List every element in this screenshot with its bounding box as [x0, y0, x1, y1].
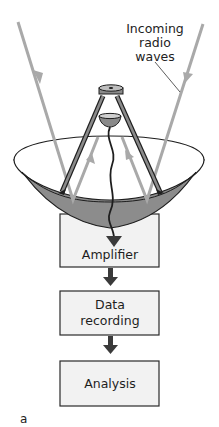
annotation-line3: waves: [135, 49, 174, 64]
panel-label: a: [20, 412, 27, 426]
flow-arrow-1-head: [103, 277, 118, 286]
radio-telescope-diagram: Incoming radio waves Amplifier Data reco…: [0, 0, 219, 427]
annotation-leader: [155, 62, 180, 92]
analysis-label: Analysis: [84, 376, 136, 391]
annotation-line2: radio: [139, 35, 171, 50]
flow-arrow-2-shaft: [108, 336, 113, 346]
data-recording-label-line1: Data: [95, 297, 125, 312]
flow-arrow-2-head: [103, 345, 118, 354]
annotation-line1: Incoming: [126, 21, 184, 36]
data-recording-label-line2: recording: [80, 313, 139, 328]
amplifier-label: Amplifier: [82, 247, 139, 262]
flow-arrow-1-shaft: [108, 268, 113, 278]
